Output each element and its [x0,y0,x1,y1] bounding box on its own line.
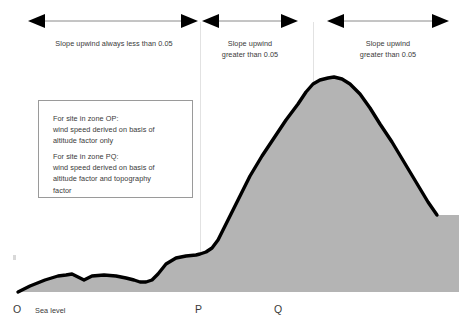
axis-label-origin: O [13,303,21,315]
axis-label-point-q: Q [274,303,282,315]
zone-arrow-OP [28,14,198,28]
zone-label-pq: Slope upwind greater than 0.05 [203,39,297,60]
zone-label-op: Slope upwind always less than 0.05 [28,39,200,50]
terrain-profile-diagram: Slope upwind always less than 0.05 Slope… [0,0,459,328]
zone-arrow-Q-plus [327,14,449,28]
info-paragraph-zone-op: For site in zone OP: wind speed derived … [53,113,155,147]
info-paragraph-zone-pq: For site in zone PQ: wind speed derived … [53,151,155,196]
info-box: For site in zone OP: wind speed derived … [38,100,193,198]
zone-arrow-PQ [202,14,298,28]
zone-label-q-plus: Slope upwind greater than 0.05 [327,39,449,60]
axis-label-point-p: P [195,303,202,315]
scan-artifact-mark [13,255,16,260]
axis-label-sea-level: Sea level [35,306,65,315]
